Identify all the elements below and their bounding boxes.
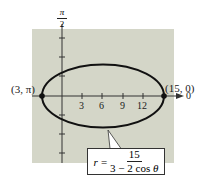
point-label-3-pi: (3, π) — [11, 84, 35, 95]
pi-half-denominator: 2 — [57, 19, 67, 29]
vertical-axis-label: π 2 — [57, 8, 67, 29]
point-15-0 — [161, 93, 167, 99]
equation-theta: θ — [153, 162, 158, 174]
equation-numerator: 15 — [127, 149, 142, 162]
equation-equals: = — [101, 156, 107, 168]
point-label-15-0: (15, 0) — [165, 83, 194, 94]
tick-label-3: 3 — [79, 101, 84, 111]
equation-denominator: 3 − 2 cos θ — [110, 162, 158, 174]
equation-box: r = 15 3 − 2 cos θ — [87, 148, 165, 175]
equation-lhs: r — [94, 156, 98, 168]
pi-half-numerator: π — [57, 8, 67, 19]
tick-label-9: 9 — [120, 101, 125, 111]
equation-denominator-text: 3 − 2 cos — [110, 162, 153, 174]
point-3-pi — [39, 93, 45, 99]
equation-fraction: 15 3 − 2 cos θ — [110, 149, 158, 174]
tick-label-12: 12 — [137, 101, 147, 111]
tick-label-6: 6 — [99, 101, 104, 111]
